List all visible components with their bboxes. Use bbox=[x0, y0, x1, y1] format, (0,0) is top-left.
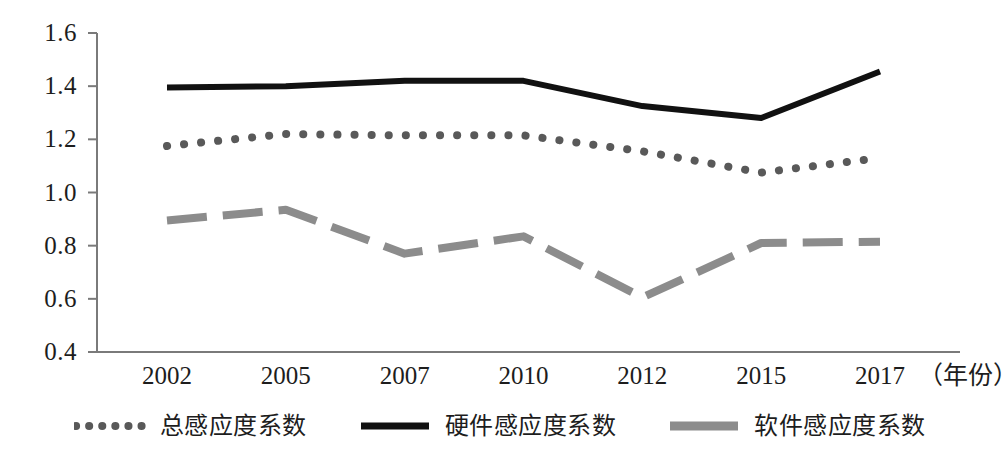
y-axis-tick-label: 0.4 bbox=[15, 339, 77, 364]
y-axis-tick-label: 1.0 bbox=[15, 180, 77, 205]
legend-swatch-solid bbox=[359, 419, 431, 433]
y-axis-tick-label: 1.6 bbox=[15, 20, 77, 45]
series-line-3 bbox=[167, 210, 880, 298]
x-axis-tick-label: 2010 bbox=[499, 363, 549, 388]
x-axis-tick-label: 2017 bbox=[855, 363, 905, 388]
x-axis-tick-label: 2015 bbox=[736, 363, 786, 388]
x-axis-tick-label: 2005 bbox=[261, 363, 311, 388]
x-axis-tick-label: 2012 bbox=[617, 363, 667, 388]
chart-legend: 总感应度系数硬件感应度系数软件感应度系数 bbox=[0, 404, 999, 448]
legend-swatch-dashed bbox=[668, 419, 740, 433]
y-axis-tick-label: 1.2 bbox=[15, 126, 77, 151]
legend-item[interactable]: 软件感应度系数 bbox=[668, 414, 926, 438]
legend-swatch-dotted bbox=[74, 419, 146, 433]
series-line-2 bbox=[167, 72, 880, 119]
x-axis-tick-label: 2007 bbox=[380, 363, 430, 388]
legend-label: 软件感应度系数 bbox=[754, 414, 926, 438]
y-axis-tick-label: 0.6 bbox=[15, 286, 77, 311]
x-axis-unit-label: （年份） bbox=[918, 363, 1006, 388]
series-line-1 bbox=[167, 134, 880, 173]
y-axis-tick-label: 0.8 bbox=[15, 233, 77, 258]
legend-item[interactable]: 总感应度系数 bbox=[74, 414, 307, 438]
x-axis-tick-label: 2002 bbox=[142, 363, 192, 388]
y-axis-tick-label: 1.4 bbox=[15, 73, 77, 98]
legend-label: 总感应度系数 bbox=[160, 414, 307, 438]
legend-label: 硬件感应度系数 bbox=[445, 414, 617, 438]
legend-item[interactable]: 硬件感应度系数 bbox=[359, 414, 617, 438]
